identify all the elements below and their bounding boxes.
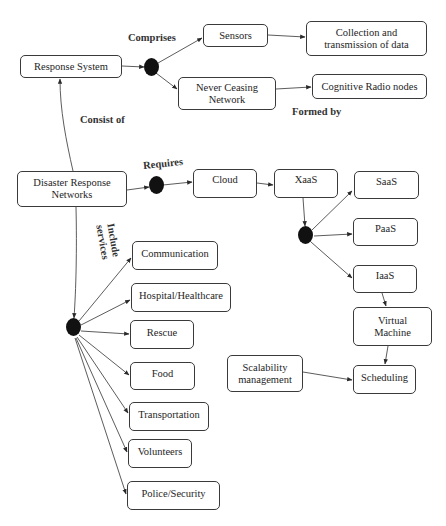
node-label-line2: Machine bbox=[374, 327, 411, 339]
node-sensors[interactable]: Sensors bbox=[203, 24, 268, 47]
node-disaster-response-networks[interactable]: Disaster Response Networks bbox=[17, 171, 127, 207]
edge-label-comprises: Comprises bbox=[128, 32, 176, 43]
node-police-security[interactable]: Police/Security bbox=[127, 481, 220, 510]
node-xaas[interactable]: XaaS bbox=[274, 169, 338, 198]
junction-requires bbox=[149, 176, 164, 194]
node-collection-transmission[interactable]: Collection and transmission of data bbox=[306, 21, 427, 56]
node-label: Cloud bbox=[212, 174, 238, 186]
node-label: PaaS bbox=[375, 223, 396, 235]
node-saas[interactable]: SaaS bbox=[354, 171, 419, 199]
node-food[interactable]: Food bbox=[130, 362, 195, 390]
node-label-line1: Never Ceasing bbox=[196, 82, 258, 94]
edge-label-consist-of: Consist of bbox=[80, 114, 125, 125]
edge-label-formed-by: Formed by bbox=[292, 106, 341, 117]
node-label-line2: Networks bbox=[52, 189, 93, 201]
node-label: Cognitive Radio nodes bbox=[321, 81, 417, 93]
diagram-canvas: Response System Sensors Never Ceasing Ne… bbox=[0, 0, 446, 526]
node-label: Transportation bbox=[138, 409, 199, 421]
node-label: SaaS bbox=[376, 176, 397, 188]
node-never-ceasing-network[interactable]: Never Ceasing Network bbox=[178, 77, 276, 110]
node-label: Police/Security bbox=[141, 488, 205, 500]
node-cloud[interactable]: Cloud bbox=[193, 169, 257, 198]
node-label: IaaS bbox=[376, 270, 395, 282]
node-label: Food bbox=[152, 368, 174, 380]
node-label: Rescue bbox=[147, 327, 177, 339]
node-label-line2: transmission of data bbox=[324, 39, 409, 51]
node-iaas[interactable]: IaaS bbox=[353, 265, 417, 293]
junction-xaas bbox=[298, 226, 313, 244]
node-label-line1: Disaster Response bbox=[33, 177, 110, 189]
node-label: Sensors bbox=[219, 30, 252, 42]
node-response-system[interactable]: Response System bbox=[20, 55, 122, 78]
node-virtual-machine[interactable]: Virtual Machine bbox=[353, 307, 432, 346]
node-scalability-management[interactable]: Scalability management bbox=[227, 355, 303, 392]
node-label: Volunteers bbox=[138, 446, 183, 458]
node-label: Communication bbox=[141, 248, 209, 260]
node-label-line1: Collection and bbox=[336, 27, 398, 39]
node-label: Scheduling bbox=[361, 372, 408, 384]
node-label: Response System bbox=[34, 61, 108, 73]
node-label-line2: management bbox=[238, 374, 292, 386]
node-scheduling[interactable]: Scheduling bbox=[353, 365, 416, 394]
node-transportation[interactable]: Transportation bbox=[129, 402, 209, 431]
node-cognitive-radio-nodes[interactable]: Cognitive Radio nodes bbox=[312, 74, 427, 99]
node-label-line1: Virtual bbox=[378, 315, 407, 327]
node-paas[interactable]: PaaS bbox=[353, 218, 418, 246]
node-rescue[interactable]: Rescue bbox=[130, 320, 194, 349]
node-communication[interactable]: Communication bbox=[132, 241, 218, 270]
node-label-line2: Network bbox=[209, 94, 246, 106]
node-volunteers[interactable]: Volunteers bbox=[128, 439, 192, 468]
node-hospital-healthcare[interactable]: Hospital/Healthcare bbox=[131, 283, 231, 312]
node-label: XaaS bbox=[295, 174, 318, 186]
junction-services bbox=[66, 318, 81, 336]
junction-comprises bbox=[144, 58, 159, 76]
node-label-line1: Scalability bbox=[243, 362, 288, 374]
node-label: Hospital/Healthcare bbox=[139, 290, 223, 302]
